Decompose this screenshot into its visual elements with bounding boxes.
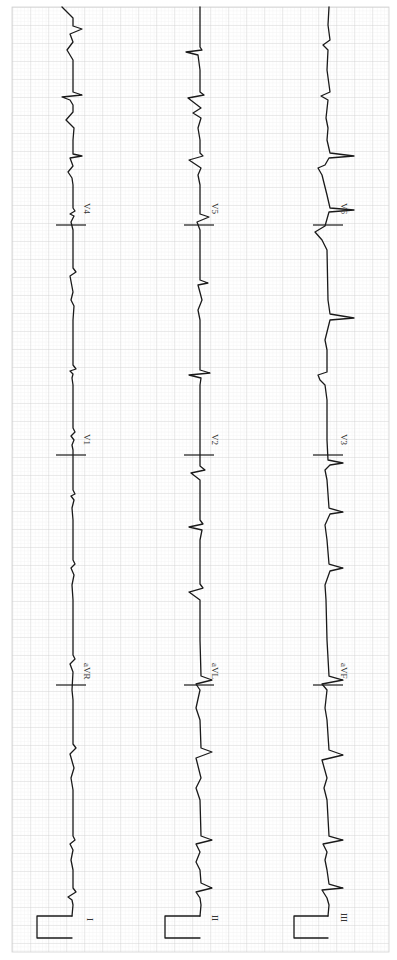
lead-label-i: I [85,918,95,921]
lead-label-avl: aVL [210,663,220,679]
ecg-chart: I aVR V1 V4 II aVL V2 V5 III aVF V3 V6 [0,0,397,960]
lead-label-v3: V3 [339,434,349,445]
lead-label-v1: V1 [82,434,92,445]
lead-label-v4: V4 [82,203,92,214]
lead-label-avf: aVF [339,663,349,679]
lead-label-v5: V5 [210,203,220,214]
lead-label-v2: V2 [210,434,220,445]
lead-label-ii: II [210,915,220,921]
lead-label-iii: III [339,913,349,922]
lead-label-v6: V6 [339,203,349,214]
lead-label-avr: aVR [82,663,92,680]
